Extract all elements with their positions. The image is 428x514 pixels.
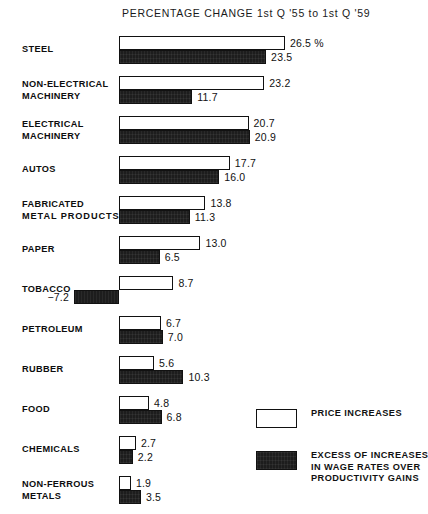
price-increase-bar: 13.8 xyxy=(119,196,205,210)
bar-value-label: 2.2 xyxy=(138,451,153,463)
bar-value-label: 4.8 xyxy=(154,397,169,409)
legend-label: PRICE INCREASES xyxy=(311,408,402,420)
row-bars: 6.77.0 xyxy=(0,310,414,350)
price-increase-bar: 5.6 xyxy=(119,356,154,370)
price-increase-bar: 13.0 xyxy=(119,236,200,250)
bar-shape xyxy=(119,476,131,490)
row-bars: 20.720.9 xyxy=(0,110,414,150)
bar-value-label: 1.9 xyxy=(136,477,151,489)
bar-value-label: 23.5 xyxy=(271,51,292,63)
chart-row: PAPER13.06.5 xyxy=(0,230,414,270)
bar-value-label: 3.5 xyxy=(146,491,161,503)
row-bars: 26.5 %23.5 xyxy=(0,30,414,70)
bar-value-label: 11.7 xyxy=(197,91,217,103)
bar-shape xyxy=(119,250,160,264)
wage-excess-bar: 16.0 xyxy=(119,170,219,184)
wage-excess-bar: 6.5 xyxy=(119,250,160,264)
row-bars: 13.06.5 xyxy=(0,230,414,270)
legend-label: EXCESS OF INCREASESIN WAGE RATES OVERPRO… xyxy=(311,450,428,485)
legend-label-line: EXCESS OF INCREASES xyxy=(311,450,428,462)
bar-value-label: 6.7 xyxy=(166,317,181,329)
bar-shape xyxy=(119,170,219,184)
bar-shape xyxy=(119,196,205,210)
bar-value-label: 8.7 xyxy=(178,277,193,289)
chart-title: PERCENTAGE CHANGE 1st Q '55 to 1st Q '59 xyxy=(122,7,370,19)
bar-value-label: 7.0 xyxy=(168,331,183,343)
bar-shape xyxy=(119,396,149,410)
chart-row: PETROLEUM6.77.0 xyxy=(0,310,414,350)
price-increase-bar: 6.7 xyxy=(119,316,161,330)
legend-swatch xyxy=(256,451,297,470)
chart-row: TOBACCO8.7−7.2 xyxy=(0,270,414,310)
bar-shape xyxy=(119,490,141,504)
chart-row: STEEL26.5 %23.5 xyxy=(0,30,414,70)
bar-value-label: 20.7 xyxy=(254,117,275,129)
legend-swatch xyxy=(256,409,297,428)
bar-value-label: 6.8 xyxy=(167,411,182,423)
row-bars: 23.211.7 xyxy=(0,70,414,110)
bar-value-label: 11.3 xyxy=(195,211,215,223)
chart-row: AUTOS17.716.0 xyxy=(0,150,414,190)
bar-value-label: 26.5 % xyxy=(290,37,324,49)
wage-excess-bar: 10.3 xyxy=(119,370,183,384)
wage-excess-bar: −7.2 xyxy=(74,290,119,304)
bar-shape xyxy=(119,276,173,290)
bar-shape xyxy=(119,450,133,464)
bar-shape xyxy=(119,316,161,330)
bar-shape xyxy=(119,36,285,50)
chart-row: NON-ELECTRICALMACHINERY23.211.7 xyxy=(0,70,414,110)
bar-shape xyxy=(119,116,249,130)
wage-excess-bar: 11.3 xyxy=(119,210,190,224)
bar-value-label: 17.7 xyxy=(235,157,256,169)
price-increase-bar: 2.7 xyxy=(119,436,136,450)
bar-shape xyxy=(119,330,163,344)
chart-row: ELECTRICALMACHINERY20.720.9 xyxy=(0,110,414,150)
bar-shape xyxy=(119,90,192,104)
bar-shape xyxy=(119,50,266,64)
bar-shape xyxy=(119,210,190,224)
bar-shape xyxy=(119,410,162,424)
wage-excess-bar: 7.0 xyxy=(119,330,163,344)
bar-value-label: 23.2 xyxy=(269,77,290,89)
bar-value-label: −7.2 xyxy=(47,291,69,303)
bar-value-label: 2.7 xyxy=(141,437,156,449)
row-bars: 13.811.3 xyxy=(0,190,414,230)
wage-excess-bar: 2.2 xyxy=(119,450,133,464)
bar-shape xyxy=(119,156,230,170)
legend-item: EXCESS OF INCREASESIN WAGE RATES OVERPRO… xyxy=(256,450,414,476)
price-increase-bar: 17.7 xyxy=(119,156,230,170)
price-increase-bar: 20.7 xyxy=(119,116,249,130)
bar-value-label: 6.5 xyxy=(165,251,180,263)
bar-shape xyxy=(119,76,264,90)
wage-excess-bar: 20.9 xyxy=(119,130,250,144)
price-increase-bar: 1.9 xyxy=(119,476,131,490)
price-increase-bar: 23.2 xyxy=(119,76,264,90)
price-increase-bar: 4.8 xyxy=(119,396,149,410)
row-bars: 5.610.3 xyxy=(0,350,414,390)
bar-shape xyxy=(119,130,250,144)
bar-value-label: 13.0 xyxy=(205,237,226,249)
legend-label-line: IN WAGE RATES OVER xyxy=(311,462,428,474)
bar-value-label: 16.0 xyxy=(224,171,245,183)
wage-excess-bar: 23.5 xyxy=(119,50,266,64)
wage-excess-bar: 6.8 xyxy=(119,410,162,424)
wage-excess-bar: 3.5 xyxy=(119,490,141,504)
chart-legend: PRICE INCREASESEXCESS OF INCREASESIN WAG… xyxy=(256,408,414,492)
bar-value-label: 13.8 xyxy=(210,197,231,209)
legend-label-line: PRICE INCREASES xyxy=(311,408,402,420)
bar-shape xyxy=(119,236,200,250)
legend-label-line: PRODUCTIVITY GAINS xyxy=(311,473,428,485)
wage-excess-bar: 11.7 xyxy=(119,90,192,104)
bar-shape xyxy=(119,356,154,370)
row-bars: 17.716.0 xyxy=(0,150,414,190)
bar-shape xyxy=(119,436,136,450)
chart-row: RUBBER5.610.3 xyxy=(0,350,414,390)
bar-shape xyxy=(119,370,183,384)
legend-item: PRICE INCREASES xyxy=(256,408,414,434)
bar-value-label: 5.6 xyxy=(159,357,174,369)
bar-value-label: 10.3 xyxy=(188,371,209,383)
row-bars: 8.7−7.2 xyxy=(0,270,414,310)
price-increase-bar: 26.5 % xyxy=(119,36,285,50)
chart-row: FABRICATEDMETAL PRODUCTS13.811.3 xyxy=(0,190,414,230)
